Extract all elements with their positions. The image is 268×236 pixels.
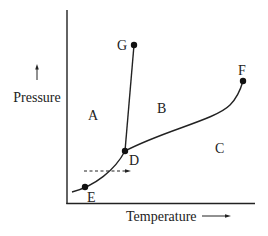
point-f-label: F [238, 63, 246, 78]
region-a-label: A [88, 108, 99, 123]
pressure-arrow-icon [35, 64, 39, 80]
x-axis-label: Temperature [126, 209, 197, 224]
liquid-gas-boundary [125, 81, 243, 151]
region-c-label: C [215, 141, 224, 156]
point-d-label: D [129, 153, 139, 168]
solid-liquid-boundary [125, 45, 134, 151]
y-axis-label: Pressure [13, 90, 60, 105]
phase-diagram: Pressure Temperature D E F G A B C [0, 0, 268, 236]
temperature-arrow-icon [202, 214, 231, 218]
point-e-label: E [87, 190, 96, 205]
point-g-label: G [117, 38, 127, 53]
point-d-marker [122, 148, 128, 154]
point-g-marker [131, 42, 137, 48]
point-f-marker [240, 78, 246, 84]
region-b-label: B [157, 101, 166, 116]
